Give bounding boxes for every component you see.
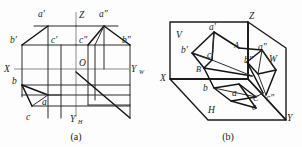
panel-b-label-b-prime: b′ xyxy=(181,45,189,55)
label-a-plain-a: a xyxy=(42,97,47,107)
panel-b-label-b-double-prime: b″ xyxy=(244,55,254,65)
axis-label-yh-subscript-a: H xyxy=(77,119,83,125)
panel-b-label-a-double-prime: a″ xyxy=(258,42,268,52)
label-c-prime-a: c′ xyxy=(51,35,58,45)
panel-b-label-plane-h: H xyxy=(207,105,216,115)
panel-a-edge-bprime-aprime xyxy=(22,26,48,45)
panel-b-label-b-plain: b xyxy=(203,83,208,93)
axis-label-yw-a: Y xyxy=(131,64,138,74)
label-a-double-prime-a: a″ xyxy=(99,9,109,19)
label-b-double-prime-a: b″ xyxy=(122,35,132,45)
panel-b-axis-label-y: Y xyxy=(287,113,294,123)
panel-b-edge-cdprime-lower xyxy=(266,70,276,95)
panel-b-ray-B-right xyxy=(204,68,252,76)
label-a-prime-a: a′ xyxy=(38,9,46,19)
panel-b-group: V Z W H X Y a′ A a″ b′ c′ b″ B b a C c c… xyxy=(159,11,294,143)
caption-a: (a) xyxy=(70,131,81,143)
panel-b-label-a-plain: a xyxy=(232,88,237,98)
panel-b-label-a-prime: a′ xyxy=(209,22,217,32)
label-c-double-prime-a: c″ xyxy=(79,35,88,45)
panel-b-label-plane-w: W xyxy=(269,54,278,64)
panel-b-label-plane-v: V xyxy=(176,30,183,40)
panel-b-label-point-A: A xyxy=(233,41,240,50)
label-b-plain-a: b xyxy=(12,76,17,86)
panel-b-edge-bdprime-cdprime xyxy=(247,62,263,93)
label-b-prime-a: b′ xyxy=(10,35,18,45)
label-c-plain-a: c xyxy=(26,112,31,122)
panel-b-label-c-plain: c xyxy=(252,102,257,112)
panel-b-ray-B-cprime xyxy=(204,60,212,68)
panel-a-drawing: a′ Z a″ b′ c′ c″ b″ X O Y W b a c Y H (a… xyxy=(0,0,302,147)
axis-label-x-a: X xyxy=(3,64,11,74)
panel-b-axis-label-x: X xyxy=(159,73,167,83)
axis-label-yw-subscript-a: W xyxy=(139,69,145,75)
panel-b-label-c-double-prime: c″ xyxy=(266,93,275,103)
axis-label-o-a: O xyxy=(79,58,86,68)
panel-a-group: a′ Z a″ b′ c′ c″ b″ X O Y W b a c Y H (a… xyxy=(3,9,145,143)
panel-b-label-c-prime: c′ xyxy=(207,50,214,60)
panel-b-label-point-B: B xyxy=(196,65,201,74)
axis-label-z-a: Z xyxy=(79,10,85,20)
panel-b-axis-label-z: Z xyxy=(249,11,255,21)
caption-b: (b) xyxy=(222,131,234,143)
figure-root: a′ Z a″ b′ c′ c″ b″ X O Y W b a c Y H (a… xyxy=(0,0,302,147)
